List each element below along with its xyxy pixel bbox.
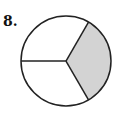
- shaded-sector: [66, 22, 111, 100]
- fraction-circle-diagram: [0, 0, 116, 120]
